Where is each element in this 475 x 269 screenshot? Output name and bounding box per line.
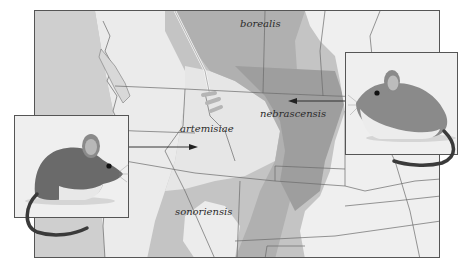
arrow-to-nebrascensis [288, 98, 345, 104]
arrows-layer [0, 0, 475, 269]
arrow-to-artemisiae [129, 144, 198, 150]
